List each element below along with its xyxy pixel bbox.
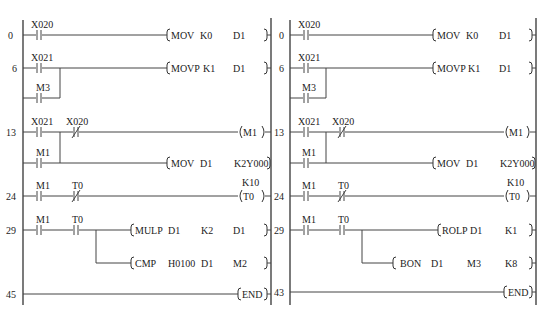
rung-24: 24 M1 T0 K10 T0: [6, 177, 271, 202]
bracket-close-icon: [529, 224, 532, 236]
coil-label: M1: [509, 127, 523, 138]
rung-6: 6 X021 M3 MOVP K1 D1: [279, 52, 536, 103]
nc-contact-icon: [72, 190, 80, 202]
contact-label: M1: [302, 214, 316, 225]
bracket-close-icon: [529, 62, 532, 74]
rung-13: 13 X021 X020 M1 M1: [274, 116, 536, 169]
instruction-op: MOV: [171, 158, 195, 169]
step-number: 24: [274, 191, 284, 202]
instruction-arg: K1: [505, 225, 517, 236]
instruction-op: CMP: [135, 258, 157, 269]
step-number: 45: [6, 289, 16, 300]
bracket-close-icon: [264, 224, 267, 236]
instruction-op: MOVP: [171, 63, 200, 74]
instruction-op: MOV: [171, 30, 195, 41]
contact-label: M1: [302, 147, 316, 158]
contact-label: M1: [36, 214, 50, 225]
contact-label: T0: [338, 214, 349, 225]
contact-label: X021: [298, 116, 320, 127]
nc-contact-icon: [72, 126, 80, 138]
bracket-open-icon: [167, 157, 170, 169]
instruction-arg: D1: [233, 63, 245, 74]
step-number: 29: [274, 225, 284, 236]
bracket-open-icon: [433, 29, 436, 41]
contact-label: X021: [298, 52, 320, 63]
instruction-arg: K2Y000: [234, 158, 268, 169]
bracket-close-icon: [529, 257, 532, 269]
contact-label: X020: [31, 19, 53, 30]
no-contact-icon: [37, 158, 41, 168]
rung-29: 29 M1 T0 MULP D1 K2 D1 CMP H0100 D1: [6, 214, 271, 269]
instruction-arg: K0: [200, 30, 212, 41]
no-contact-icon: [37, 93, 41, 103]
instruction-arg: M3: [467, 258, 481, 269]
instruction-arg: K8: [505, 258, 517, 269]
rung-6: 6 X021 M3 MOVP K1 D1: [12, 52, 271, 103]
instruction-arg: K2: [201, 225, 213, 236]
no-contact-icon: [37, 191, 41, 201]
timer-setting: K10: [507, 177, 524, 188]
rung-0: 0 X020 MOV K0 D1: [8, 19, 271, 41]
step-number: 6: [12, 63, 17, 74]
instruction-arg: D1: [499, 63, 511, 74]
instruction-arg: K1: [468, 63, 480, 74]
instruction-op: BON: [400, 258, 421, 269]
contact-label: T0: [338, 180, 349, 191]
instruction-arg: K1: [203, 63, 215, 74]
step-number: 0: [8, 30, 13, 41]
instruction-arg: M2: [233, 258, 247, 269]
bracket-open-icon: [438, 224, 441, 236]
no-contact-icon: [304, 30, 308, 40]
step-number: 0: [279, 30, 284, 41]
contact-label: X021: [31, 52, 53, 63]
bracket-open-icon: [167, 29, 170, 41]
bracket-open-icon: [504, 286, 507, 298]
bracket-open-icon: [238, 288, 241, 300]
instruction-arg: D1: [431, 258, 443, 269]
contact-label: M1: [302, 180, 316, 191]
no-contact-icon: [74, 225, 78, 235]
no-contact-icon: [304, 191, 308, 201]
step-number: 13: [274, 127, 284, 138]
bracket-close-icon: [264, 29, 267, 41]
contact-label: M3: [36, 82, 50, 93]
no-contact-icon: [304, 127, 308, 137]
no-contact-icon: [304, 225, 308, 235]
coil-label: T0: [243, 191, 254, 202]
timer-setting: K10: [242, 177, 259, 188]
instruction-op: MOV: [437, 158, 461, 169]
bracket-close-icon: [529, 286, 532, 298]
instruction-arg: D1: [499, 30, 511, 41]
contact-label: X020: [66, 116, 88, 127]
instruction-op: MULP: [135, 225, 163, 236]
instruction-arg: D1: [233, 225, 245, 236]
nc-contact-icon: [338, 126, 346, 138]
instruction-arg: D1: [201, 258, 213, 269]
instruction-arg: H0100: [168, 258, 195, 269]
instruction-op: MOVP: [437, 63, 466, 74]
instruction-op: MOV: [437, 30, 461, 41]
ladder-diagram-left: 0 X020 MOV K0 D1 6 X021 M3: [6, 18, 271, 305]
step-number: 43: [274, 287, 284, 298]
contact-label: M1: [36, 180, 50, 191]
bracket-open-icon: [131, 257, 134, 269]
bracket-close-icon: [529, 29, 532, 41]
instruction-arg: D1: [470, 225, 482, 236]
rung-end: 43 END: [274, 286, 536, 298]
no-contact-icon: [340, 225, 344, 235]
no-contact-icon: [37, 127, 41, 137]
step-number: 29: [6, 225, 16, 236]
bracket-open-icon: [131, 224, 134, 236]
contact-label: M1: [36, 147, 50, 158]
step-number: 6: [279, 63, 284, 74]
contact-label: T0: [72, 214, 83, 225]
bracket-close-icon: [264, 257, 267, 269]
rung-0: 0 X020 MOV K0 D1: [279, 19, 536, 41]
contact-label: M3: [302, 82, 316, 93]
instruction-arg: K2Y000: [500, 158, 534, 169]
instruction-arg: D1: [466, 158, 478, 169]
bracket-open-icon: [167, 62, 170, 74]
bracket-open-icon: [393, 257, 396, 269]
no-contact-icon: [37, 225, 41, 235]
instruction-arg: D1: [200, 158, 212, 169]
